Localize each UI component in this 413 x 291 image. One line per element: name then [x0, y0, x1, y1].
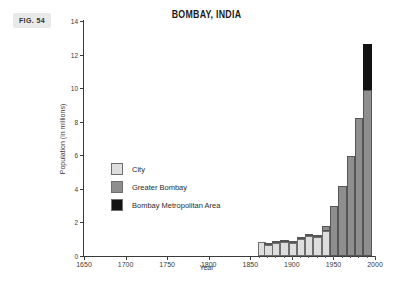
bar-group	[297, 21, 305, 256]
bar-segment	[272, 241, 280, 243]
bar-segment	[313, 237, 321, 256]
bar-segment	[297, 237, 305, 239]
x-tick-minor	[308, 256, 309, 258]
y-tick-label: 12	[71, 51, 78, 58]
legend-swatch	[111, 199, 123, 211]
y-tick-label: 8	[74, 118, 78, 125]
y-tick	[80, 155, 84, 156]
legend-item: Bombay Metropolitan Area	[111, 196, 220, 214]
bar-group	[305, 21, 313, 256]
x-tick-minor	[300, 256, 301, 258]
x-tick-minor	[317, 256, 318, 258]
y-tick-label: 6	[74, 152, 78, 159]
chart-title: BOMBAY, INDIA	[25, 9, 388, 20]
y-tick-label: 4	[74, 185, 78, 192]
bar-segment	[280, 240, 288, 242]
bar-segment	[347, 156, 355, 256]
x-tick-minor	[375, 256, 376, 258]
x-tick	[167, 256, 168, 260]
y-tick	[80, 122, 84, 123]
y-tick	[80, 222, 84, 223]
legend-label: Greater Bombay	[132, 183, 187, 192]
y-tick	[80, 21, 84, 22]
x-tick-minor	[342, 256, 343, 258]
bar-group	[289, 21, 297, 256]
bar-group	[322, 21, 330, 256]
bar-group	[280, 21, 288, 256]
x-tick-minor	[267, 256, 268, 258]
x-tick-minor	[259, 256, 260, 258]
bar-segment	[363, 44, 371, 89]
x-tick	[209, 256, 210, 260]
chart-legend: CityGreater BombayBombay Metropolitan Ar…	[111, 160, 220, 214]
x-tick-minor	[275, 256, 276, 258]
bar-segment	[322, 226, 330, 231]
bar-segment	[330, 206, 338, 256]
x-tick-minor	[333, 256, 334, 258]
bar-group	[330, 21, 338, 256]
plot-area: Population (in millions) 02468101214 165…	[84, 21, 375, 256]
legend-item: Greater Bombay	[111, 178, 220, 196]
legend-label: City	[132, 165, 145, 174]
y-tick-label: 0	[74, 253, 78, 260]
bar-segment	[363, 90, 371, 256]
legend-swatch	[111, 181, 123, 193]
bar-group	[338, 21, 346, 256]
chart-title-text: BOMBAY, INDIA	[172, 9, 242, 20]
bar-group	[363, 21, 371, 256]
y-axis-label: Population (in millions)	[59, 103, 66, 173]
legend-swatch	[111, 163, 123, 175]
x-tick-minor	[292, 256, 293, 258]
bar-segment	[355, 118, 363, 256]
x-tick-minor	[350, 256, 351, 258]
bar-segment	[289, 243, 297, 256]
bar-segment	[313, 235, 321, 237]
y-tick	[80, 189, 84, 190]
bar-segment	[289, 241, 297, 243]
bar-segment	[305, 234, 313, 236]
x-tick	[126, 256, 127, 260]
legend-item: City	[111, 160, 220, 178]
y-tick-label: 2	[74, 219, 78, 226]
x-axis-label: Year	[0, 264, 413, 271]
y-tick	[80, 88, 84, 89]
bar-group	[272, 21, 280, 256]
x-tick	[250, 256, 251, 260]
x-tick-minor	[358, 256, 359, 258]
x-tick	[84, 256, 85, 260]
y-tick	[80, 55, 84, 56]
bar-segment	[297, 239, 305, 256]
x-axis-line	[83, 256, 376, 257]
bar-segment	[322, 231, 330, 256]
bar-group	[347, 21, 355, 256]
legend-label: Bombay Metropolitan Area	[132, 201, 220, 210]
x-tick-minor	[367, 256, 368, 258]
bar-segment	[280, 242, 288, 256]
bar-segment	[338, 186, 346, 256]
y-tick-label: 14	[71, 18, 78, 25]
figure-root: FIG. 54 BOMBAY, INDIA Population (in mil…	[0, 0, 413, 291]
bar-group	[355, 21, 363, 256]
bar-segment	[305, 236, 313, 256]
y-tick-label: 10	[71, 85, 78, 92]
x-tick-minor	[284, 256, 285, 258]
bar-segment	[272, 243, 280, 256]
x-tick-minor	[325, 256, 326, 258]
bar-group	[313, 21, 321, 256]
